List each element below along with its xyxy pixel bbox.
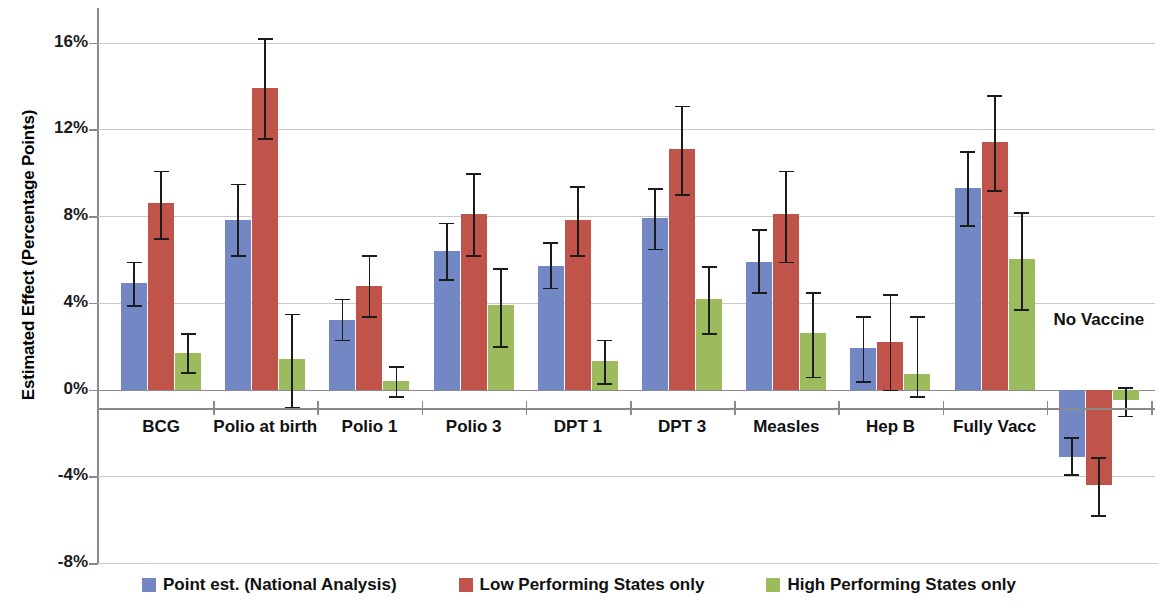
x-tick-mark (943, 401, 945, 415)
x-tick-mark (213, 401, 215, 415)
error-bar (708, 266, 710, 333)
error-bar (396, 366, 398, 396)
error-bar-cap-lower (231, 255, 246, 257)
error-bar-cap-upper (597, 340, 612, 342)
error-bar (133, 262, 135, 305)
error-bar-cap-lower (466, 255, 481, 257)
error-bar-cap-lower (439, 279, 454, 281)
error-bar-cap-upper (543, 242, 558, 244)
error-bar-cap-upper (493, 268, 508, 270)
error-bar (500, 268, 502, 346)
error-bar-cap-upper (910, 316, 925, 318)
y-tick-mark (89, 563, 98, 565)
error-bar (812, 292, 814, 377)
error-bar-cap-lower (702, 333, 717, 335)
error-bar-cap-upper (181, 333, 196, 335)
error-bar-cap-upper (675, 106, 690, 108)
error-bar-cap-lower (570, 255, 585, 257)
legend-label: Point est. (National Analysis) (163, 575, 397, 595)
error-bar-cap-lower (987, 190, 1002, 192)
error-bar-cap-lower (258, 138, 273, 140)
legend-label: High Performing States only (787, 575, 1016, 595)
error-bar (473, 173, 475, 255)
bar-group (838, 8, 942, 563)
legend-entry: Low Performing States only (459, 575, 705, 595)
error-bar-cap-upper (570, 186, 585, 188)
x-tick-mark (838, 401, 840, 415)
error-bar (681, 106, 683, 195)
error-bar-cap-lower (1064, 474, 1079, 476)
error-bar-cap-lower (910, 396, 925, 398)
error-bar (369, 255, 371, 316)
legend-entry: High Performing States only (766, 575, 1016, 595)
error-bar (890, 294, 892, 389)
chart-legend: Point est. (National Analysis)Low Perfor… (0, 575, 1158, 595)
error-bar-cap-lower (806, 377, 821, 379)
error-bar (342, 299, 344, 340)
plot-area (97, 8, 1155, 563)
error-bar-cap-lower (675, 194, 690, 196)
error-bar-cap-upper (362, 255, 377, 257)
error-bar (160, 171, 162, 238)
error-bar-cap-lower (597, 383, 612, 385)
error-bar-cap-lower (389, 396, 404, 398)
x-category-label: DPT 3 (630, 417, 734, 437)
error-bar-cap-upper (1064, 437, 1079, 439)
x-category-label: Hep B (838, 417, 942, 437)
error-bar (187, 333, 189, 372)
error-bar (1098, 457, 1100, 516)
error-bar-cap-lower (362, 316, 377, 318)
error-bar-cap-upper (883, 294, 898, 296)
x-category-label: No Vaccine (1047, 310, 1151, 330)
x-tick-mark (1047, 401, 1049, 415)
error-bar-cap-upper (779, 171, 794, 173)
error-bar-cap-lower (960, 225, 975, 227)
error-bar (967, 151, 969, 225)
error-bar-cap-upper (1118, 387, 1133, 389)
error-bar-cap-lower (154, 238, 169, 240)
bar-chart: Estimated Effect (Percentage Points) 16%… (0, 0, 1158, 607)
error-bar (1125, 387, 1127, 415)
error-bar (237, 184, 239, 256)
bar-group (422, 8, 526, 563)
error-bar-cap-lower (493, 346, 508, 348)
bar-group (213, 8, 317, 563)
error-bar (577, 186, 579, 255)
bar-group (526, 8, 630, 563)
error-bar-cap-upper (439, 223, 454, 225)
x-category-label: DPT 1 (526, 417, 630, 437)
error-bar (994, 95, 996, 190)
x-tick-mark (630, 401, 632, 415)
error-bar (785, 171, 787, 262)
bar-group (630, 8, 734, 563)
y-tick-label: -8% (18, 552, 88, 572)
error-bar (917, 316, 919, 396)
error-bar (863, 316, 865, 381)
x-category-label: Fully Vacc (943, 417, 1047, 437)
x-category-label: Polio 3 (422, 417, 526, 437)
bar-groups (97, 8, 1155, 563)
legend-swatch-icon (766, 578, 780, 592)
x-category-label: Measles (734, 417, 838, 437)
x-tick-mark (734, 401, 736, 415)
error-bar-cap-upper (987, 95, 1002, 97)
legend-swatch-icon (142, 578, 156, 592)
error-bar-cap-lower (335, 340, 350, 342)
error-bar-cap-lower (181, 372, 196, 374)
error-bar-cap-upper (752, 229, 767, 231)
error-bar-cap-lower (648, 249, 663, 251)
error-bar-cap-lower (1091, 515, 1106, 517)
error-bar-cap-upper (335, 299, 350, 301)
error-bar (1071, 437, 1073, 474)
x-axis-line (97, 408, 1155, 410)
error-bar-cap-upper (127, 262, 142, 264)
error-bar (446, 223, 448, 279)
error-bar-cap-lower (1014, 309, 1029, 311)
bar-group (317, 8, 421, 563)
error-bar-cap-upper (231, 184, 246, 186)
error-bar-cap-lower (127, 305, 142, 307)
error-bar-cap-upper (389, 366, 404, 368)
error-bar (654, 188, 656, 249)
error-bar-cap-upper (702, 266, 717, 268)
error-bar (1021, 212, 1023, 310)
